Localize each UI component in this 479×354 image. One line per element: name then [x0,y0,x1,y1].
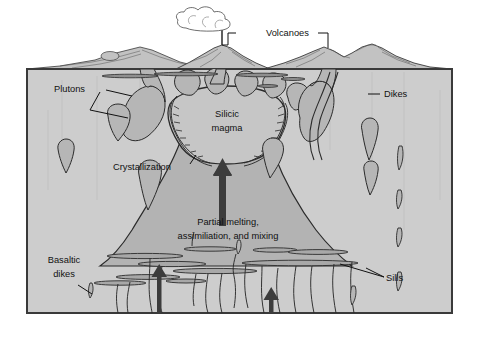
volcano-cone-right [264,44,452,69]
label-basaltic-dikes-line1: Basaltic [48,255,81,265]
sill-10 [166,279,206,283]
sill-upper-3 [236,73,288,77]
surface-topography [27,7,452,69]
sill-8 [116,275,180,280]
geology-cross-section-diagram: Volcanoes Plutons Dikes Silicic magma Cr… [0,0,479,354]
sill-7 [173,268,257,273]
label-crystallization: Crystallization [113,162,171,172]
label-volcanoes: Volcanoes [266,28,309,38]
sill-upper-1 [102,74,158,78]
leader-volcanoes-right [318,33,328,48]
sill-2 [184,247,236,251]
label-partial-melting-line1: Partial melting, [197,217,259,227]
label-silicic-magma-line1: Silicic [215,109,239,119]
sill-5 [138,261,206,266]
sill-4 [288,250,348,255]
sill-1 [107,253,183,258]
label-dikes: Dikes [384,89,408,99]
volcano-cone-center [176,45,270,69]
sill-9 [94,281,146,285]
eruption-cloud-icon [176,7,230,31]
sill-upper-2 [154,72,218,76]
label-sills: Sills [386,273,403,283]
sill-upper-4 [281,78,305,81]
label-partial-melting-line2: assimiliation, and mixing [178,231,279,241]
sill-6 [242,260,358,266]
label-basaltic-dikes-line2: dikes [53,269,75,279]
parasitic-cone [101,52,119,61]
figure-root: Volcanoes Plutons Dikes Silicic magma Cr… [0,0,479,354]
ascent-arrow-left-shaft [157,273,162,315]
label-silicic-magma-line2: magma [211,123,243,133]
leader-volcanoes-left [222,33,236,45]
label-plutons: Plutons [54,84,85,94]
sill-upper-5 [258,85,278,88]
